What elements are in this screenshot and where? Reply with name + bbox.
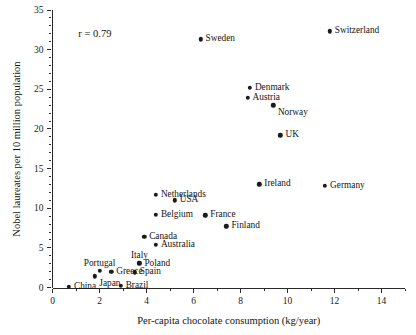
data-point-label: Finland xyxy=(231,222,259,231)
y-tick-minor xyxy=(49,200,52,201)
x-tick-major xyxy=(52,289,53,294)
y-tick-minor xyxy=(49,232,52,233)
x-axis-label: Per-capita chocolate consumption (kg/yea… xyxy=(137,315,320,326)
data-point-label: Denmark xyxy=(255,83,290,92)
y-tick-minor xyxy=(49,97,52,98)
x-tick-label: 14 xyxy=(377,296,387,306)
data-point xyxy=(93,274,97,278)
x-tick-label: 12 xyxy=(330,296,340,306)
y-tick-label: 0 xyxy=(0,283,44,293)
data-point xyxy=(245,96,249,100)
x-tick-label: 4 xyxy=(144,296,149,306)
y-tick-major xyxy=(47,89,52,90)
y-tick-minor xyxy=(49,239,52,240)
data-point xyxy=(323,184,327,188)
y-tick-label: 35 xyxy=(0,5,44,15)
data-point xyxy=(172,198,176,202)
data-point xyxy=(154,193,158,197)
y-tick-major xyxy=(47,10,52,11)
x-tick-major xyxy=(381,289,382,294)
x-tick-label: 8 xyxy=(238,296,243,306)
y-tick-minor xyxy=(49,184,52,185)
data-point-label: USA xyxy=(180,196,199,205)
y-axis-line xyxy=(52,10,53,288)
y-tick-minor xyxy=(49,255,52,256)
y-tick-minor xyxy=(49,25,52,26)
plot-area: 0246810121405101520253035SwitzerlandSwed… xyxy=(0,0,416,335)
data-point-label: Germany xyxy=(330,181,365,190)
data-point xyxy=(142,235,146,239)
y-tick-minor xyxy=(49,17,52,18)
data-point xyxy=(278,133,282,137)
x-tick-major xyxy=(99,289,100,294)
data-point xyxy=(198,37,202,41)
y-tick-minor xyxy=(49,263,52,264)
x-tick-minor xyxy=(170,289,171,292)
y-tick-minor xyxy=(49,160,52,161)
y-tick-minor xyxy=(49,192,52,193)
y-tick-major xyxy=(47,287,52,288)
data-point xyxy=(154,212,158,216)
y-tick-minor xyxy=(49,105,52,106)
data-point-label: Portugal xyxy=(84,259,116,268)
x-tick-major xyxy=(240,289,241,294)
data-point-label: Greece xyxy=(116,267,142,276)
y-tick-minor xyxy=(49,279,52,280)
y-tick-major xyxy=(47,128,52,129)
data-point-label: Brazil xyxy=(126,281,149,290)
y-tick-minor xyxy=(49,152,52,153)
data-point-label: Spain xyxy=(140,268,161,277)
y-tick-minor xyxy=(49,216,52,217)
data-point-label: Sweden xyxy=(206,35,235,44)
data-point-label: Japan xyxy=(99,279,120,288)
data-point xyxy=(248,85,252,89)
nobel-chocolate-scatter-figure: 0246810121405101520253035SwitzerlandSwed… xyxy=(0,0,416,335)
y-tick-minor xyxy=(49,136,52,137)
y-tick-major xyxy=(47,168,52,169)
data-point xyxy=(224,224,228,228)
data-point-label: France xyxy=(210,211,235,220)
data-point xyxy=(203,213,207,217)
y-tick-major xyxy=(47,208,52,209)
y-tick-minor xyxy=(49,121,52,122)
x-tick-label: 2 xyxy=(97,296,102,306)
y-tick-minor xyxy=(49,57,52,58)
data-point xyxy=(154,242,158,246)
x-tick-major xyxy=(193,289,194,294)
y-tick-minor xyxy=(49,65,52,66)
y-tick-major xyxy=(47,247,52,248)
x-tick-major xyxy=(287,289,288,294)
y-tick-minor xyxy=(49,271,52,272)
x-tick-major xyxy=(334,289,335,294)
y-tick-minor xyxy=(49,113,52,114)
correlation-annotation: r = 0.79 xyxy=(78,28,111,39)
y-tick-minor xyxy=(49,33,52,34)
data-point xyxy=(97,269,101,273)
x-tick-minor xyxy=(264,289,265,292)
data-point xyxy=(257,182,261,186)
data-point xyxy=(271,103,275,107)
data-point xyxy=(328,29,332,33)
y-tick-minor xyxy=(49,41,52,42)
data-point-label: Australia xyxy=(161,240,195,249)
data-point-label: Ireland xyxy=(264,180,290,189)
data-point-label: Norway xyxy=(278,108,308,117)
y-tick-minor xyxy=(49,81,52,82)
data-point xyxy=(109,269,113,273)
x-tick-label: 0 xyxy=(50,296,55,306)
y-tick-minor xyxy=(49,176,52,177)
y-tick-major xyxy=(47,49,52,50)
x-tick-minor xyxy=(358,289,359,292)
x-tick-minor xyxy=(311,289,312,292)
data-point-label: Belgium xyxy=(161,210,193,219)
x-tick-minor xyxy=(123,289,124,292)
data-point-label: Austria xyxy=(253,93,280,102)
y-tick-minor xyxy=(49,73,52,74)
data-point-label: China xyxy=(74,282,96,291)
x-tick-minor xyxy=(405,289,406,292)
y-tick-minor xyxy=(49,144,52,145)
x-tick-label: 10 xyxy=(283,296,293,306)
y-tick-label: 5 xyxy=(0,243,44,253)
data-point-label: Switzerland xyxy=(335,27,379,36)
x-tick-minor xyxy=(217,289,218,292)
